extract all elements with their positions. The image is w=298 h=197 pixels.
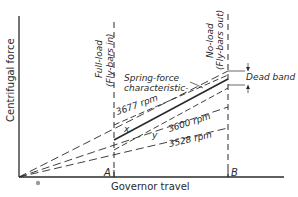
marker-y: y	[152, 131, 157, 140]
y-axis-label: Centrifugal force	[6, 38, 16, 122]
origin-dot	[36, 181, 40, 185]
dead-band-arrowhead-bottom	[246, 85, 250, 89]
x-axis-label: Governor travel	[111, 182, 190, 192]
full-load-label: Full-load	[95, 40, 104, 78]
marker-b: B	[231, 168, 238, 178]
spring-force-label: Spring-force	[124, 74, 179, 83]
marker-x: x	[124, 125, 129, 134]
no-load-label: No-load	[206, 23, 215, 58]
fly-bars-in-label: (Fly-bars in)	[106, 33, 115, 87]
marker-a: A	[104, 168, 111, 178]
dead-band-arrowhead-top	[246, 67, 250, 71]
characteristic-label: characteristic-	[124, 84, 189, 93]
dead-band-label: Dead band	[246, 73, 295, 82]
fly-bars-out-label: (Fly-bars out)	[216, 10, 225, 70]
